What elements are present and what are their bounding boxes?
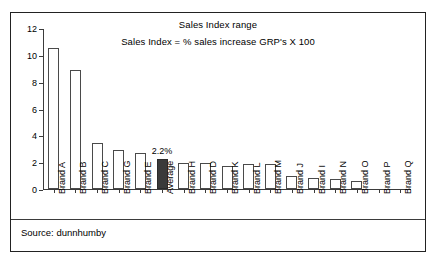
- x-axis-category-label: Brand I: [318, 165, 327, 194]
- y-axis-tick: [39, 83, 43, 84]
- y-axis-tick: [39, 110, 43, 111]
- plot-area: 024681012 2.2%: [43, 29, 411, 190]
- x-axis-tick: [357, 190, 358, 193]
- x-axis-tick: [249, 190, 250, 193]
- footer-divider: [11, 219, 425, 220]
- x-axis-tick: [292, 190, 293, 193]
- x-axis-tick: [335, 190, 336, 193]
- chart-frame: Sales Index range Sales Index = % sales …: [10, 12, 426, 252]
- y-axis-label: 4: [32, 132, 37, 141]
- x-axis-category-label: Brand M: [274, 160, 283, 194]
- x-axis-category-label: Average: [166, 161, 175, 194]
- x-axis-tick: [162, 190, 163, 193]
- x-axis-tick: [140, 190, 141, 193]
- x-axis-category-label: Brand H: [188, 161, 197, 194]
- x-axis-tick: [227, 190, 228, 193]
- x-axis-category-label: Brand J: [296, 163, 305, 194]
- x-axis-category-label: Brand A: [58, 162, 67, 194]
- x-axis-category-label: Brand B: [79, 161, 88, 194]
- y-axis-tick: [39, 29, 43, 30]
- x-axis-tick: [54, 190, 55, 193]
- x-axis-tick: [314, 190, 315, 193]
- y-axis-label: 8: [32, 78, 37, 87]
- x-axis-tick: [270, 190, 271, 193]
- x-axis-tick: [75, 190, 76, 193]
- x-axis-tick: [97, 190, 98, 193]
- y-axis-tick: [39, 163, 43, 164]
- x-axis-category-label: Brand D: [209, 161, 218, 194]
- x-axis-tick: [119, 190, 120, 193]
- source-note: Source: dunnhumby: [21, 227, 106, 238]
- x-axis-category-label: Brand E: [144, 161, 153, 194]
- x-axis-tick: [184, 190, 185, 193]
- y-axis-label: 2: [32, 159, 37, 168]
- y-axis-label: 6: [32, 105, 37, 114]
- x-axis-category-label: Brand G: [123, 160, 132, 194]
- y-axis-line: [43, 29, 44, 190]
- x-axis-tick: [400, 190, 401, 193]
- x-axis-category-label: Brand L: [253, 162, 262, 194]
- bar-value-annotation: 2.2%: [148, 147, 176, 156]
- x-axis-category-label: Brand N: [339, 161, 348, 194]
- x-axis-category-label: Brand K: [231, 161, 240, 194]
- x-axis-category-label: Brand P: [383, 161, 392, 194]
- y-axis-tick: [39, 190, 43, 191]
- y-axis-label: 0: [32, 186, 37, 195]
- x-axis-category-label: Brand O: [361, 160, 370, 194]
- y-axis-tick: [39, 136, 43, 137]
- x-axis-tick: [205, 190, 206, 193]
- y-axis-label: 12: [27, 25, 37, 34]
- y-axis-label: 10: [27, 51, 37, 60]
- x-axis-category-label: Brand Q: [404, 160, 413, 194]
- x-axis-category-label: Brand C: [101, 161, 110, 194]
- y-axis-tick: [39, 56, 43, 57]
- x-axis-tick: [379, 190, 380, 193]
